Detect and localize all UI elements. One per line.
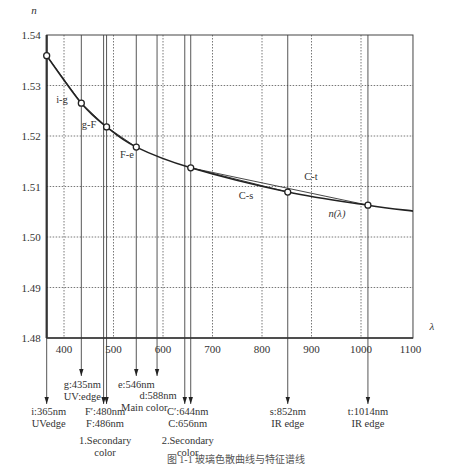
x-tick-label: 700 [204,343,221,355]
chord-label: C-t [304,171,318,182]
arrowhead [104,397,108,404]
chords [47,56,368,205]
spectral-annotation: UV:edge [64,391,101,402]
y-axis-label: n [31,4,37,16]
y-tick-label: 1.48 [21,332,41,344]
group-annotation: 2.Secondary [162,435,215,446]
data-point-i [44,53,50,59]
x-tick-label: 800 [254,343,271,355]
chord-label: C-s [239,190,254,201]
y-tick-label: 1.49 [21,282,41,294]
x-tick-label: 400 [56,343,73,355]
x-tick-label: 1000 [350,343,373,355]
arrowhead [286,397,290,404]
spectral-annotation: g:435nm [64,379,101,390]
data-point-e [133,144,139,150]
spectral-annotation: i:365nm [31,406,66,417]
y-tick-label: 1.53 [21,80,41,92]
group-annotation: C′:644nm [167,406,208,417]
y-tick-label: 1.52 [21,130,40,142]
spectral-annotation: IR edge [271,418,304,429]
data-point-g [78,100,84,106]
group-annotation: 1.Secondary [79,435,132,446]
data-point-t [365,202,371,208]
x-tick-label: 500 [105,343,122,355]
arrowhead [155,369,159,376]
figure-caption: 图 1-1 玻璃色散曲线与特征谱线 [167,453,305,465]
spectral-annotation: UVedge [32,418,66,429]
arrowhead [183,397,187,404]
arrowhead [189,397,193,404]
spectral-annotation: t:1014nm [348,406,388,417]
dispersion-chart: 1.481.491.501.511.521.531.54400500600700… [0,0,452,469]
chord-label: F-e [120,149,134,160]
spectral-annotation: e:546nm [118,379,155,390]
data-point-F [104,124,110,130]
spectral-annotation: d:588nm [139,390,176,401]
x-tick-label: 600 [155,343,172,355]
arrowhead [366,397,370,404]
data-point-C [188,165,194,171]
data-points [44,53,371,208]
x-tick-label: 900 [303,343,320,355]
group-annotation: color [94,447,116,458]
spectral-annotation: Main color [121,402,168,413]
data-point-s [285,189,291,195]
group-annotation: C:656nm [168,418,207,429]
y-tick-label: 1.51 [21,181,40,193]
y-tick-label: 1.54 [21,29,41,41]
dispersion-curve [47,56,413,211]
grid [47,35,413,338]
spectral-annotation: s:852nm [270,406,306,417]
x-tick-label: 1100 [400,343,422,355]
group-annotation: F:486nm [86,418,124,429]
chord-label: g-F [82,119,97,130]
arrowhead [79,369,83,376]
curve-label: n(λ) [329,208,346,220]
chord-label: i-g [56,94,68,105]
x-axis-label: λ [429,320,435,332]
spectral-annotation: IR edge [351,418,384,429]
arrowhead [134,369,138,376]
arrowhead [44,397,48,404]
y-tick-label: 1.50 [21,231,41,243]
group-annotation: F′:480nm [85,406,125,417]
